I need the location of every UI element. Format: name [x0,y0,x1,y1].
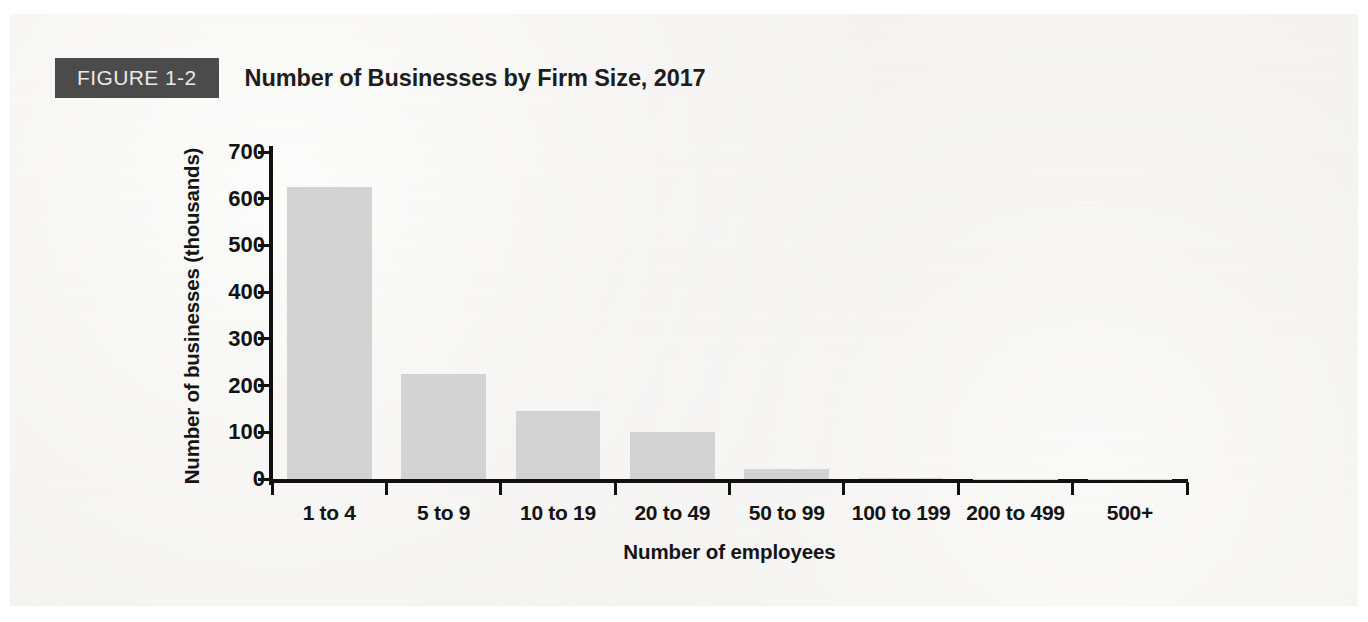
y-axis-tick-label: 600 [228,188,265,210]
y-axis-tick-label: 0 [253,468,265,490]
y-axis-tick-label: 700 [228,141,265,163]
y-axis-tick-label: 500 [228,234,265,256]
x-axis-tick [614,482,617,495]
bar-slot: 100 to 199 [844,152,958,479]
figure-page: FIGURE 1-2 Number of Businesses by Firm … [0,0,1368,622]
x-axis-tick [728,482,731,495]
x-axis-category-label: 200 to 499 [930,501,1100,525]
x-axis-category-label: 100 to 199 [816,501,986,525]
y-axis-tick-label: 200 [228,375,265,397]
x-axis-category-label: 20 to 49 [587,501,757,525]
x-axis-category-label: 5 to 9 [359,501,529,525]
bar-slot: 200 to 499 [958,152,1072,479]
x-axis-title: Number of employees [272,540,1187,564]
bar [630,432,715,479]
x-axis-tick [957,482,960,495]
scanned-page-surface: FIGURE 1-2 Number of Businesses by Firm … [10,14,1358,606]
bar [287,187,372,479]
bar [516,411,601,479]
x-axis-tick [499,482,502,495]
x-axis-category-label: 1 to 4 [244,501,414,525]
y-axis-tick-label: 100 [228,421,265,443]
bar-slot: 5 to 9 [386,152,500,479]
bar [744,469,829,479]
bar-slot: 500+ [1073,152,1187,479]
x-axis-tick [842,482,845,495]
x-axis-category-label: 50 to 99 [702,501,872,525]
x-axis-tick [1071,482,1074,495]
x-axis-category-label: 500+ [1045,501,1215,525]
bar-chart: 0100200300400500600700 1 to 45 to 910 to… [10,14,1358,606]
x-axis-tick [385,482,388,495]
bar-slot: 20 to 49 [615,152,729,479]
bar-slot: 1 to 4 [272,152,386,479]
x-axis-category-label: 10 to 19 [473,501,643,525]
x-axis-tick [1186,482,1189,495]
x-axis-tick [271,482,274,495]
bar [401,374,486,479]
y-axis-tick-label: 400 [228,281,265,303]
y-axis-tick-label: 300 [228,328,265,350]
plot-area: 0100200300400500600700 1 to 45 to 910 to… [272,152,1187,479]
bar-slot: 10 to 19 [501,152,615,479]
bar-slot: 50 to 99 [730,152,844,479]
